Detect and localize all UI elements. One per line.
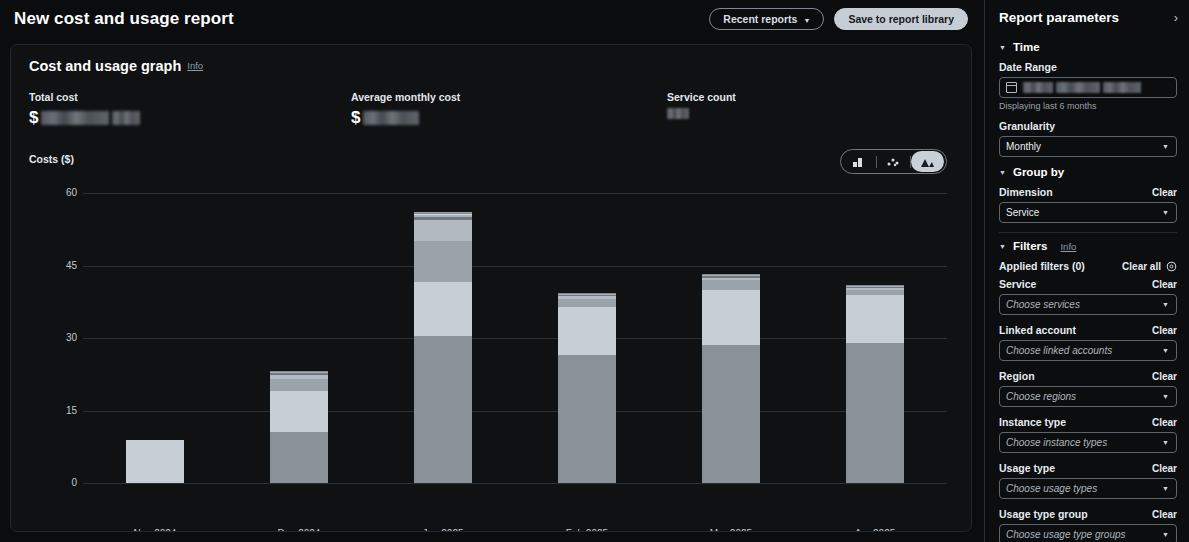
- bar-segment[interactable]: [558, 355, 616, 483]
- clear-all-link[interactable]: Clear all: [1122, 261, 1161, 272]
- bar-segment[interactable]: [702, 345, 760, 483]
- granularity-field: Granularity Monthly ▼: [999, 120, 1177, 157]
- bar-column[interactable]: [92, 183, 217, 483]
- main-content: New cost and usage report Recent reports…: [0, 0, 984, 542]
- bar-chart-icon[interactable]: [843, 151, 876, 172]
- dimension-label: Dimension Clear: [999, 186, 1177, 198]
- stacked-bar[interactable]: [126, 440, 184, 484]
- bar-series: [83, 183, 947, 483]
- chevron-down-icon: ▼: [999, 169, 1006, 176]
- bar-segment[interactable]: [414, 282, 472, 335]
- chevron-down-icon: ▼: [1162, 209, 1169, 216]
- filter-label-row: Usage type groupClear: [999, 508, 1177, 520]
- currency-symbol: $: [351, 108, 360, 128]
- redacted-value-2: [112, 111, 140, 125]
- filter-select[interactable]: Choose regions▼: [999, 386, 1177, 407]
- bar-segment[interactable]: [126, 440, 184, 484]
- filter-clear-link[interactable]: Clear: [1152, 509, 1177, 520]
- filter-select[interactable]: Choose instance types▼: [999, 432, 1177, 453]
- filter-select[interactable]: Choose usage type groups▼: [999, 524, 1177, 542]
- dimension-clear-link[interactable]: Clear: [1152, 187, 1177, 198]
- bar-segment[interactable]: [414, 241, 472, 282]
- bar-column[interactable]: [812, 183, 937, 483]
- bar-segment[interactable]: [702, 290, 760, 346]
- bar-segment[interactable]: [270, 379, 328, 391]
- stacked-bar[interactable]: [702, 274, 760, 483]
- filter-label: Usage type group: [999, 508, 1088, 520]
- chevron-down-icon: ▼: [1162, 301, 1169, 308]
- bar-segment[interactable]: [846, 343, 904, 483]
- stacked-bar[interactable]: [270, 371, 328, 483]
- applied-filters-row: Applied filters (0) Clear all: [999, 260, 1177, 272]
- x-axis-tick-label: Mar 2025: [668, 528, 793, 532]
- filter-field: Usage typeClearChoose usage types▼: [999, 462, 1177, 499]
- stat-label: Total cost: [29, 91, 351, 103]
- bar-segment[interactable]: [558, 299, 616, 306]
- filter-clear-link[interactable]: Clear: [1152, 417, 1177, 428]
- filter-label-row: Instance typeClear: [999, 416, 1177, 428]
- bar-segment[interactable]: [846, 295, 904, 343]
- stat-label: Average monthly cost: [351, 91, 667, 103]
- save-to-report-library-button[interactable]: Save to report library: [834, 8, 968, 30]
- filter-clear-link[interactable]: Clear: [1152, 463, 1177, 474]
- recent-reports-label: Recent reports: [723, 13, 797, 25]
- filter-label-row: Linked accountClear: [999, 324, 1177, 336]
- card-info-link[interactable]: Info: [187, 60, 203, 71]
- bar-segment[interactable]: [558, 307, 616, 355]
- section-filters-label: Filters: [1013, 240, 1048, 252]
- stat-value: [667, 108, 736, 119]
- chevron-down-icon: ▼: [999, 44, 1006, 51]
- bar-segment[interactable]: [414, 336, 472, 483]
- date-range-field: Date Range Displaying last 6 months: [999, 61, 1177, 111]
- scatter-chart-icon[interactable]: [877, 151, 910, 172]
- panel-divider: [999, 232, 1177, 233]
- bar-segment[interactable]: [702, 280, 760, 290]
- section-filters[interactable]: ▼ Filters Info: [999, 240, 1177, 252]
- filters-info-link[interactable]: Info: [1060, 241, 1076, 252]
- filter-select[interactable]: Choose usage types▼: [999, 478, 1177, 499]
- date-range-label: Date Range: [999, 61, 1177, 73]
- filter-placeholder: Choose usage type groups: [1006, 529, 1126, 540]
- date-range-input[interactable]: [999, 77, 1177, 98]
- bar-segment[interactable]: [414, 220, 472, 242]
- stacked-bar[interactable]: [558, 293, 616, 483]
- section-time[interactable]: ▼ Time: [999, 41, 1177, 53]
- y-axis-tick-label: 45: [41, 260, 77, 271]
- section-group-by[interactable]: ▼ Group by: [999, 166, 1177, 178]
- filter-field: Instance typeClearChoose instance types▼: [999, 416, 1177, 453]
- x-axis-tick-label: Dec 2024: [236, 528, 361, 532]
- filter-clear-link[interactable]: Clear: [1152, 371, 1177, 382]
- filter-placeholder: Choose services: [1006, 299, 1080, 310]
- card-title-text: Cost and usage graph: [29, 58, 181, 74]
- y-axis-tick-label: 30: [41, 332, 77, 343]
- bar-segment[interactable]: [270, 432, 328, 483]
- filter-select[interactable]: Choose services▼: [999, 294, 1177, 315]
- bar-column[interactable]: [236, 183, 361, 483]
- bar-column[interactable]: [524, 183, 649, 483]
- calendar-icon: [1006, 82, 1017, 93]
- stat-value: $: [29, 108, 351, 128]
- stacked-bar[interactable]: [846, 285, 904, 483]
- bar-column[interactable]: [380, 183, 505, 483]
- filter-field: RegionClearChoose regions▼: [999, 370, 1177, 407]
- filter-clear-link[interactable]: Clear: [1152, 325, 1177, 336]
- filter-placeholder: Choose regions: [1006, 391, 1076, 402]
- chevron-down-icon: ▼: [999, 243, 1006, 250]
- stacked-area-chart-icon[interactable]: [911, 151, 944, 172]
- filter-clear-link[interactable]: Clear: [1152, 279, 1177, 290]
- stacked-bar[interactable]: [414, 212, 472, 483]
- filter-placeholder: Choose linked accounts: [1006, 345, 1112, 356]
- filter-select[interactable]: Choose linked accounts▼: [999, 340, 1177, 361]
- bar-segment[interactable]: [270, 391, 328, 432]
- granularity-select[interactable]: Monthly ▼: [999, 136, 1177, 157]
- settings-gear-icon[interactable]: [1166, 261, 1177, 272]
- dimension-field: Dimension Clear Service ▼: [999, 186, 1177, 223]
- stat-service-count: Service count: [667, 91, 736, 137]
- dimension-select[interactable]: Service ▼: [999, 202, 1177, 223]
- filter-placeholder: Choose instance types: [1006, 437, 1107, 448]
- granularity-label: Granularity: [999, 120, 1177, 132]
- recent-reports-button[interactable]: Recent reports ▼: [709, 8, 824, 30]
- bar-column[interactable]: [668, 183, 793, 483]
- chevron-down-icon: ▼: [1162, 393, 1169, 400]
- chevron-right-icon[interactable]: ›: [1168, 9, 1184, 25]
